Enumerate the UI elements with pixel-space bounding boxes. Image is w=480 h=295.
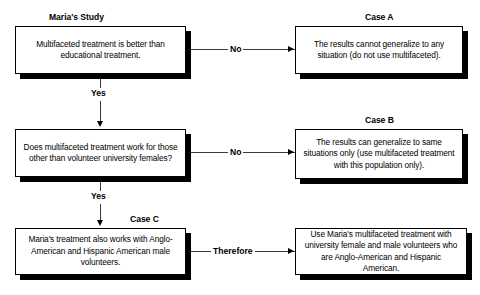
node-finding-c-text: Maria's treatment also works with Anglo-… [16, 234, 185, 268]
connector-yes-1-arrow [97, 121, 103, 127]
connector-no-2-arrow [288, 149, 294, 155]
node-question2-text: Does multifaceted treatment work for tho… [16, 142, 185, 165]
node-outcome-b: The results can generalize to same situa… [295, 129, 463, 179]
edge-label-yes-1: Yes [89, 88, 108, 98]
node-outcome-b-text: The results can generalize to same situa… [296, 137, 462, 171]
title-case-a: Case A [365, 12, 394, 22]
node-conclusion-text: Use Maria's multifaceted treatment with … [296, 229, 466, 275]
title-case-b: Case B [365, 115, 394, 125]
edge-label-no-1: No [228, 44, 243, 54]
node-question2: Does multifaceted treatment work for tho… [15, 129, 186, 177]
node-question1: Multifaceted treatment is better than ed… [15, 26, 186, 74]
node-outcome-a-text: The results cannot generalize to any sit… [296, 39, 462, 62]
flowchart-canvas: Maria's Study Multifaceted treatment is … [0, 0, 480, 295]
node-outcome-a: The results cannot generalize to any sit… [295, 26, 463, 74]
node-question1-text: Multifaceted treatment is better than ed… [16, 39, 185, 62]
connector-yes-2-arrow [97, 220, 103, 226]
title-case-c: Case C [130, 214, 159, 224]
node-finding-c: Maria's treatment also works with Anglo-… [15, 228, 186, 275]
node-conclusion: Use Maria's multifaceted treatment with … [295, 228, 467, 275]
edge-label-therefore: Therefore [211, 246, 255, 256]
edge-label-no-2: No [228, 147, 243, 157]
edge-label-yes-2: Yes [89, 191, 108, 201]
title-marias-study: Maria's Study [49, 12, 104, 22]
connector-no-1-arrow [288, 46, 294, 52]
connector-yes-1-line-bottom [100, 101, 101, 123]
connector-therefore-arrow [288, 248, 294, 254]
